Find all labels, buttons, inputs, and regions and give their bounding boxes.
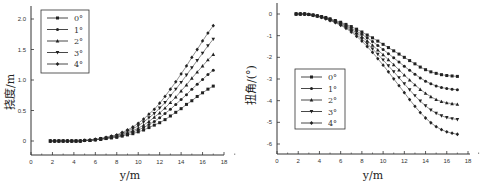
y-tick-label: 2.0: [18, 16, 27, 22]
x-tick-label: 8: [360, 158, 364, 164]
x-tick-label: 8: [115, 159, 119, 165]
legend-label: 4°: [328, 119, 337, 128]
legend-label: 1°: [328, 85, 337, 94]
x-tick-label: 10: [380, 158, 387, 164]
x-tick-label: 2: [297, 158, 301, 164]
x-tick-label: 16: [443, 158, 450, 164]
y-tick-label: 1.5: [18, 47, 27, 53]
legend: 0°1°2°3°4°: [41, 10, 89, 73]
legend-label: 4°: [74, 60, 83, 69]
x-tick-label: 18: [465, 158, 472, 164]
y-tick-label: 1.0: [18, 77, 27, 83]
legend-label: 2°: [74, 37, 83, 46]
series-line: [50, 70, 213, 141]
x-tick-label: 6: [94, 159, 98, 165]
x-tick-label: 6: [339, 158, 343, 164]
y-tick-label: -2: [267, 54, 273, 60]
x-tick-label: 10: [135, 159, 142, 165]
charts-canvas: 02468101214161800.51.01.52.00°1°2°3°4°y/…: [0, 0, 480, 187]
x-tick-label: 0: [29, 159, 33, 165]
legend: 0°1°2°3°4°: [295, 69, 345, 129]
x-axis-label: y/m: [119, 169, 141, 182]
y-tick-label: -5: [267, 119, 273, 125]
legend-label: 1°: [74, 26, 83, 35]
x-tick-label: 14: [422, 158, 429, 164]
legend-label: 2°: [328, 96, 337, 105]
y-tick-label: -6: [267, 141, 273, 147]
y-tick-label: 0.5: [18, 108, 27, 114]
x-tick-label: 4: [72, 159, 76, 165]
x-tick-label: 16: [199, 159, 206, 165]
x-tick-label: 4: [318, 158, 322, 164]
x-tick-label: 0: [275, 158, 279, 164]
y-tick-label: 0: [269, 11, 273, 17]
torsion-chart: 0246810121416180-1-2-3-4-5-60°1°2°3°4°y/…: [244, 3, 479, 182]
y-tick-label: -4: [267, 98, 273, 104]
legend-label: 3°: [328, 108, 337, 117]
y-axis-label: 挠度/m: [3, 73, 17, 110]
x-tick-label: 18: [221, 159, 228, 165]
x-tick-label: 12: [156, 159, 163, 165]
y-tick-label: 0: [23, 138, 27, 144]
x-tick-label: 12: [401, 158, 408, 164]
legend-label: 3°: [74, 49, 83, 58]
deflection-chart: 02468101214161800.51.01.52.00°1°2°3°4°y/…: [3, 6, 235, 182]
x-axis-label: y/m: [362, 169, 384, 182]
x-tick-label: 2: [51, 159, 55, 165]
y-tick-label: -3: [267, 76, 273, 82]
x-tick-label: 14: [178, 159, 185, 165]
legend-label: 0°: [74, 14, 83, 23]
y-tick-label: -1: [267, 33, 273, 39]
legend-label: 0°: [328, 73, 337, 82]
y-axis-label: 扭角/(°): [244, 65, 258, 105]
